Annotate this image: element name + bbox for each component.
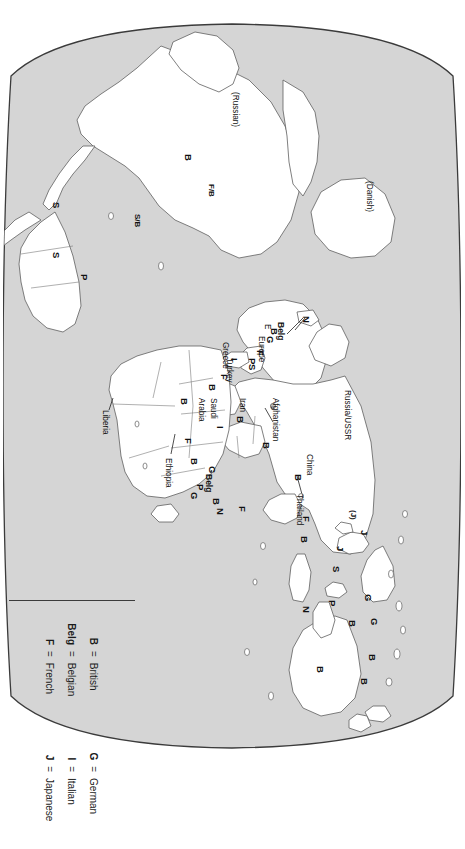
legend-abbreviation: Belg [67,615,78,645]
legend-equals-sign: = [89,651,100,657]
legend-abbreviation: I [67,730,78,760]
legend-equals-sign: = [67,766,78,772]
legend-column: B=BritishBelg=BelgianF=French [45,615,100,696]
legend-entry: Belg=Belgian [67,615,78,696]
legend-columns: B=BritishBelg=BelgianF=FrenchG=GermanI=I… [45,615,100,846]
legend-abbreviation: J [45,730,56,760]
legend-power-name: British [89,663,100,691]
legend-entry: J=Japanese [45,730,56,821]
legend-abbreviation: B [89,615,100,645]
legend-power-name: German [89,778,100,814]
legend-power-name: Italian [67,778,78,805]
legend-entry: B=British [89,615,100,696]
legend-equals-sign: = [45,766,56,772]
map-figure: (Russian)(Danish)Russia/USSRAfghanistanC… [0,0,465,849]
legend-abbreviation: G [89,730,100,760]
legend-equals-sign: = [89,766,100,772]
afghanistan-marker [270,403,275,408]
legend-column: G=GermanI=ItalianJ=Japanese [45,730,100,821]
legend-power-name: French [45,663,56,694]
legend-equals-sign: = [45,651,56,657]
legend-entry: F=French [45,615,56,696]
legend-entry: I=Italian [67,730,78,821]
legend-abbreviation: F [45,615,56,645]
thailand-marker [299,494,304,499]
legend-equals-sign: = [67,651,78,657]
legend-power-name: Japanese [45,778,56,821]
map-legend: B=BritishBelg=BelgianF=FrenchG=GermanI=I… [9,600,135,846]
legend-power-name: Belgian [67,663,78,696]
legend-entry: G=German [89,730,100,821]
